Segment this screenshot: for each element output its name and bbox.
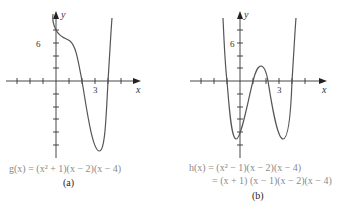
x-tick-label-3-a: 3: [93, 85, 98, 95]
curve-h: [223, 18, 296, 139]
caption-b-line1: h(x) = (x² − 1)(x − 2)(x − 4): [189, 162, 301, 173]
x-axis-label-a: x: [135, 84, 141, 95]
sublabel-a: (a): [63, 177, 74, 188]
y-arrow-icon: [53, 11, 59, 19]
y-tick-label-6-a: 6: [36, 39, 41, 49]
y-tick-label-6-b: 6: [230, 39, 235, 49]
curve-g: [53, 14, 112, 151]
sublabel-b: (b): [252, 190, 264, 201]
graph-b: [190, 11, 327, 158]
graph-a: [6, 11, 141, 158]
caption-a: g(x) = (x² + 1)(x − 2)(x − 4): [9, 163, 121, 174]
y-axis-label-a: y: [60, 9, 66, 20]
x-tick-label-3-b: 3: [277, 85, 282, 95]
y-arrow-icon: [237, 11, 243, 19]
y-axis-label-b: y: [243, 9, 249, 20]
x-axis-label-b: x: [321, 84, 327, 95]
caption-b-line2: = (x + 1) (x − 1)(x − 2)(x − 4): [212, 175, 332, 186]
